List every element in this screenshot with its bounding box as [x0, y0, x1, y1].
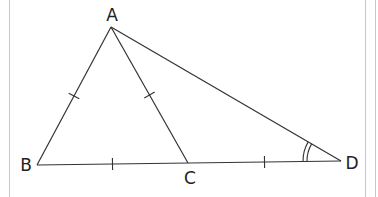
- segments: [37, 27, 341, 165]
- segment-ad: [111, 27, 341, 161]
- tick-marks: [69, 92, 265, 170]
- label-point-b: B: [20, 157, 32, 174]
- angle-marks: [303, 142, 312, 162]
- label-point-d: D: [345, 155, 358, 172]
- label-point-a: A: [106, 7, 118, 24]
- segment-bd: [37, 161, 341, 165]
- tick-mark-ab: [69, 93, 80, 99]
- tick-mark-ac: [144, 92, 154, 98]
- label-point-c: C: [184, 170, 196, 187]
- angle-arc-d: [307, 144, 312, 162]
